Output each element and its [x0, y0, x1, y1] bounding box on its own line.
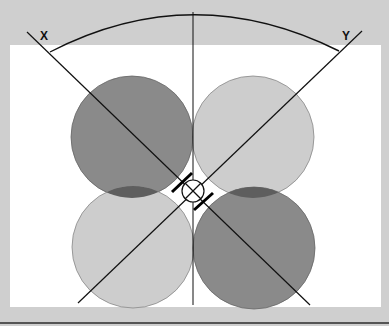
pickup-angle-arc — [50, 15, 339, 52]
lobe-rear-left — [72, 186, 194, 308]
y-axis-label: Y — [342, 29, 350, 43]
polar-pattern-diagram — [0, 0, 389, 326]
lobe-front-left — [71, 76, 193, 198]
lobe-rear-right — [193, 187, 315, 309]
x-axis-label: X — [40, 29, 48, 43]
